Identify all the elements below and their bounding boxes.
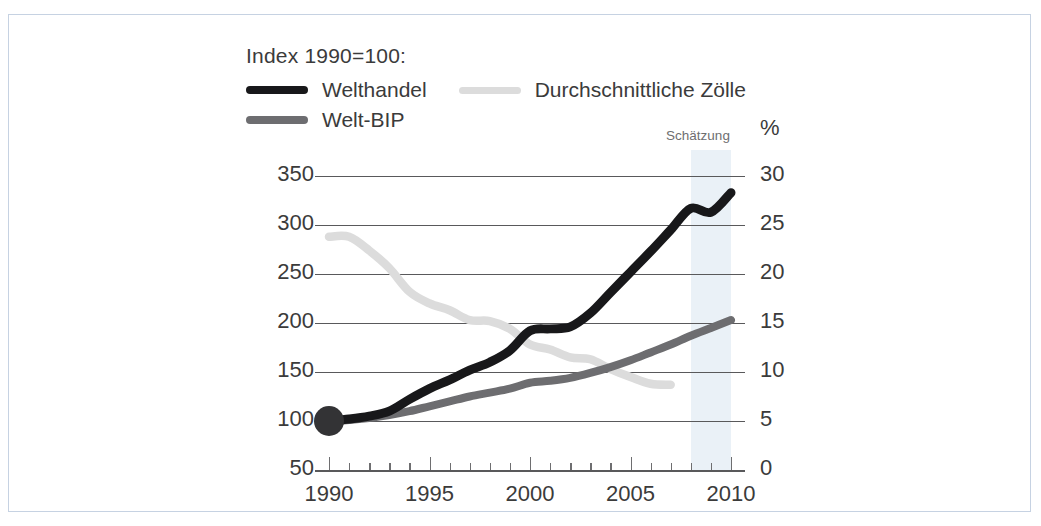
origin-marker-dot bbox=[314, 406, 344, 436]
x-axis-labels: 19901995200020052010 bbox=[0, 481, 1041, 515]
chart-figure: Index 1990=100: Welthandel Durchschnittl… bbox=[0, 0, 1041, 526]
x-tick-label-1995: 1995 bbox=[405, 481, 454, 507]
x-tick-label-2010: 2010 bbox=[707, 481, 756, 507]
data-curves bbox=[0, 0, 1041, 526]
x-tick-label-2005: 2005 bbox=[606, 481, 655, 507]
x-tick-label-1990: 1990 bbox=[305, 481, 354, 507]
x-tick-label-2000: 2000 bbox=[506, 481, 555, 507]
